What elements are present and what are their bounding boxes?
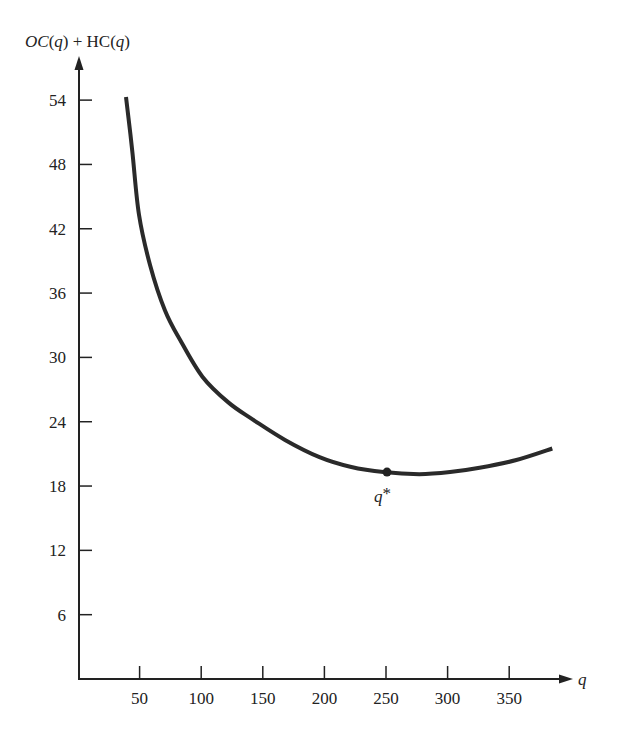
x-tick-label: 150 [250,689,276,708]
y-tick-label: 42 [49,220,66,239]
y-tick-label: 54 [49,91,67,110]
cost-chart: OC(q) + HC(q) q 50100150200250300350 612… [0,0,620,743]
y-ticks: 61218243036424854 [49,91,92,625]
annotations: q* [374,468,392,507]
y-axis-title: OC(q) + HC(q) [25,32,130,51]
cost-curve [126,97,552,474]
y-tick-label: 24 [49,413,67,432]
x-tick-label: 250 [373,689,399,708]
x-tick-label: 50 [131,689,148,708]
y-tick-label: 18 [49,477,66,496]
x-axis-arrow-icon [559,675,573,684]
y-tick-label: 6 [58,606,67,625]
x-axis-title: q [578,670,587,689]
x-tick-label: 300 [435,689,461,708]
x-tick-label: 350 [496,689,522,708]
y-tick-label: 30 [49,348,66,367]
optimum-label: q* [374,484,391,506]
x-ticks: 50100150200250300350 [131,666,522,708]
y-axis-arrow-icon [75,56,84,70]
y-tick-label: 36 [49,284,66,303]
axes: q [75,56,588,689]
y-tick-label: 48 [49,155,66,174]
x-tick-label: 200 [312,689,338,708]
optimum-point-dot [383,468,392,477]
y-tick-label: 12 [49,541,66,560]
x-tick-label: 100 [188,689,214,708]
